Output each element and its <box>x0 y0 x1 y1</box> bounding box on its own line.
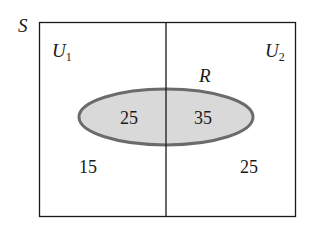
universe-label: S <box>18 15 28 36</box>
region-u2-and-r-value: 35 <box>194 108 212 128</box>
venn-diagram: S U1 U2 R 25 35 15 25 <box>0 0 309 231</box>
region-u1-not-r-value: 15 <box>79 157 97 177</box>
region-u1-and-r-value: 25 <box>120 108 138 128</box>
event-r-label: R <box>198 65 211 86</box>
region-u2-not-r-value: 25 <box>240 157 258 177</box>
